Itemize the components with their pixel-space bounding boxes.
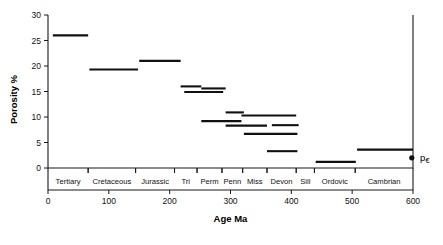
plot-axes (48, 15, 413, 168)
x-tick-label: 100 (102, 196, 116, 206)
x-axis-tick-group: 0100200300400500600 (46, 190, 421, 206)
x-tick-label: 0 (46, 196, 51, 206)
x-tick-label: 300 (223, 196, 237, 206)
precambrian-point-marker (409, 155, 414, 160)
era-label: Perm (200, 177, 218, 186)
x-tick-label: 500 (345, 196, 359, 206)
era-label: Penn (223, 177, 241, 186)
chart-canvas: 051015202530 0100200300400500600 Tertiar… (0, 0, 443, 245)
precambrian-annotation-subscript: € (426, 156, 430, 165)
era-label: Tri (181, 177, 190, 186)
y-tick-label: 10 (32, 112, 42, 122)
y-tick-label: 0 (36, 163, 41, 173)
y-tick-label: 15 (32, 87, 42, 97)
x-tick-label: 400 (284, 196, 298, 206)
annotation-group: p€ (420, 152, 430, 165)
y-tick-label: 5 (36, 138, 41, 148)
plot-frame (48, 15, 413, 190)
era-label-group: TertiaryCretaceousJurassicTriPermPennMis… (56, 177, 401, 186)
era-label: Cretaceous (92, 177, 131, 186)
x-tick-label: 200 (163, 196, 177, 206)
x-axis-title: Age Ma (214, 213, 249, 224)
precambrian-annotation: p (420, 152, 425, 163)
y-tick-label: 20 (32, 61, 42, 71)
point-marker-group (409, 155, 414, 160)
porosity-vs-age-chart: 051015202530 0100200300400500600 Tertiar… (0, 0, 443, 245)
era-label: Devon (271, 177, 293, 186)
era-label: Miss (247, 177, 263, 186)
y-axis-title: Porosity % (8, 74, 19, 124)
era-label: Sill (300, 177, 310, 186)
x-tick-label: 600 (406, 196, 420, 206)
y-axis-tick-group: 051015202530 (32, 10, 48, 173)
data-segment-group (53, 35, 413, 161)
era-label: Tertiary (56, 177, 81, 186)
era-label: Ordovic (322, 177, 348, 186)
era-label: Cambrian (368, 177, 401, 186)
era-label: Jurassic (141, 177, 169, 186)
era-divider-group (88, 168, 355, 173)
y-tick-label: 30 (32, 10, 42, 20)
y-tick-label: 25 (32, 36, 42, 46)
